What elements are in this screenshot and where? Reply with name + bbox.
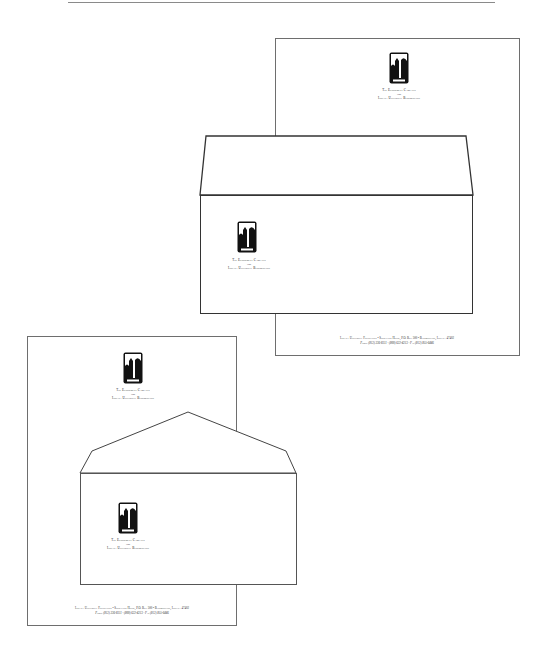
envelope-caption-lower: The Endowment Campaign for Indiana Unive… — [107, 538, 149, 551]
envelope-body-lower — [80, 473, 297, 585]
campaign-university: Indiana University Bloomington — [107, 546, 149, 550]
campaign-logo-icon — [118, 502, 138, 534]
